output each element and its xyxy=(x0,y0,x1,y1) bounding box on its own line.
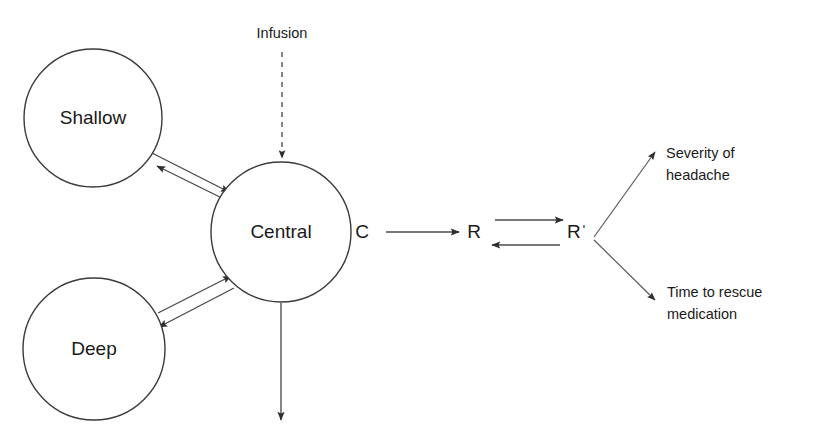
arrow-shallow-to-central xyxy=(152,153,229,192)
compartment-shallow[interactable]: Shallow xyxy=(24,49,162,187)
response-prime-label: Rˈ xyxy=(567,221,587,242)
severity-of-headache-line-2: headache xyxy=(666,167,730,183)
shallow-label: Shallow xyxy=(60,107,127,128)
arrow-to-severity-of-headache xyxy=(594,152,655,237)
infusion-label: Infusion xyxy=(257,25,308,41)
response-label: R xyxy=(467,221,481,242)
time-to-rescue-medication-line-1: Time to rescue xyxy=(667,284,762,300)
severity-of-headache-line-1: Severity of xyxy=(666,145,735,161)
deep-central-exchange-group xyxy=(158,276,234,327)
infusion-input-group: Infusion xyxy=(257,25,308,158)
deep-label: Deep xyxy=(71,338,116,359)
compartment-central[interactable]: Central xyxy=(211,162,351,302)
concentration-label: C xyxy=(355,221,369,242)
central-label: Central xyxy=(250,221,311,242)
outcome-severity-of-headache: Severity of headache xyxy=(666,145,735,183)
diagram-canvas: Infusion Shallow Central xyxy=(0,0,819,441)
outcome-time-to-rescue-medication: Time to rescue medication xyxy=(667,284,762,322)
arrow-to-time-to-rescue-medication xyxy=(594,240,655,300)
compartment-deep[interactable]: Deep xyxy=(23,278,165,420)
pkpd-model-diagram: Infusion Shallow Central xyxy=(0,0,819,441)
time-to-rescue-medication-line-2: medication xyxy=(667,306,737,322)
